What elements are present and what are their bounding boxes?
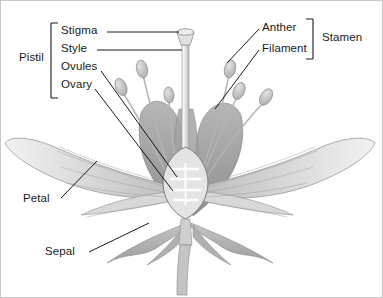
- flower-anatomy-diagram: Pistil Stigma Style Ovules Ovary Anther …: [0, 0, 383, 298]
- stamen-bracket: [306, 19, 313, 59]
- label-pistil: Pistil: [19, 52, 44, 64]
- label-stigma: Stigma: [61, 25, 97, 37]
- label-sepal: Sepal: [45, 246, 75, 258]
- pistil-bracket: [51, 23, 58, 98]
- stem: [177, 245, 191, 295]
- label-filament: Filament: [262, 43, 307, 55]
- anthers: [113, 59, 276, 108]
- label-ovules: Ovules: [61, 61, 97, 73]
- label-anther: Anther: [262, 22, 296, 34]
- style: [182, 45, 189, 151]
- label-petal: Petal: [23, 193, 50, 205]
- label-ovary: Ovary: [61, 79, 92, 91]
- label-stamen: Stamen: [322, 32, 362, 44]
- label-style: Style: [61, 43, 87, 55]
